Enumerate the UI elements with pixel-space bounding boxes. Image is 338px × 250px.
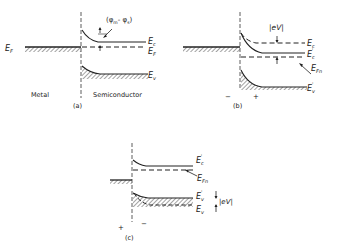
- bias-sign-metal: +: [118, 224, 124, 232]
- level-label-ev: Ev: [148, 71, 157, 81]
- barrier-height-label: (φm- φs): [106, 16, 133, 25]
- level-label-ec-prime: Ec': [196, 153, 204, 166]
- panel-c: |eV| Ec' EFn Ev' Ev + − (c): [110, 143, 233, 242]
- band-diagram-figure: EF (φm- φs) Ec EF Ev Metal Semiconductor…: [0, 0, 338, 250]
- bias-sign-semiconductor: +: [253, 93, 259, 101]
- valence-band-biased: [133, 193, 193, 198]
- panel-caption-a: (a): [73, 102, 82, 110]
- region-label-metal: Metal: [31, 91, 49, 99]
- metal-filled-states: [25, 47, 81, 52]
- conduction-band-equilibrium: [241, 33, 305, 43]
- level-label-efn: EFn: [311, 64, 322, 74]
- conduction-band-edge: [82, 30, 146, 42]
- level-label-ev: Ev: [196, 205, 205, 215]
- level-label-ef: EF: [148, 47, 156, 57]
- arrow-up-icon: [215, 204, 218, 207]
- region-label-semiconductor: Semiconductor: [93, 91, 142, 99]
- panel-caption-c: (c): [125, 234, 134, 242]
- level-label-ec: Ec: [148, 37, 156, 47]
- panel-a: EF (φm- φs) Ec EF Ev Metal Semiconductor…: [5, 12, 157, 110]
- panel-caption-b: (b): [233, 102, 242, 110]
- arrow-down-icon: [215, 196, 218, 199]
- voltage-label: |eV|: [269, 23, 284, 32]
- metal-filled-states: [183, 47, 240, 52]
- panel-b: |eV| Ec Ec' EFn Ev' − + (b): [183, 12, 322, 110]
- arrow-up-icon: [99, 27, 102, 30]
- fermi-pointer: [187, 171, 197, 176]
- bias-sign-metal: −: [225, 93, 231, 101]
- metal-fermi-label: EF: [5, 44, 13, 54]
- bias-sign-semiconductor: −: [141, 220, 147, 228]
- voltage-label: |eV|: [219, 198, 233, 206]
- level-label-efn: EFn: [197, 174, 208, 184]
- conduction-band-biased: [133, 160, 193, 166]
- level-label-ev-prime: Ev': [196, 189, 205, 202]
- level-label-ev-prime: Ev': [307, 81, 316, 94]
- fermi-pointer: [301, 65, 311, 74]
